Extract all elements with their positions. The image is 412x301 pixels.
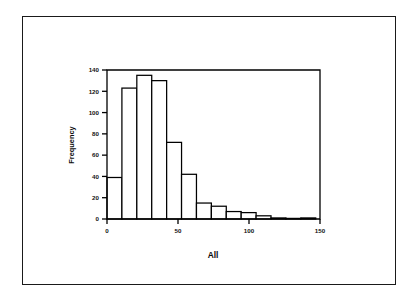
y-tick-label: 80 xyxy=(92,130,99,137)
x-axis-ticks: 050100150 xyxy=(105,219,325,234)
y-tick-label: 40 xyxy=(92,173,99,180)
x-axis-title: All xyxy=(208,250,219,260)
y-tick-label: 60 xyxy=(92,151,99,158)
x-tick-label: 100 xyxy=(244,227,255,234)
histogram-bar xyxy=(167,142,182,219)
histogram-bar xyxy=(107,177,122,219)
histogram-bar xyxy=(211,206,226,219)
y-axis-title: Frequency xyxy=(67,125,76,163)
y-tick-label: 140 xyxy=(89,66,100,73)
histogram-bar xyxy=(122,88,137,219)
y-tick-label: 0 xyxy=(96,215,100,222)
y-tick-label: 100 xyxy=(89,109,100,116)
histogram-bars xyxy=(107,75,316,219)
y-tick-label: 20 xyxy=(92,194,99,201)
histogram-bar xyxy=(182,174,197,219)
y-tick-label: 120 xyxy=(89,88,100,95)
histogram-bar xyxy=(152,81,167,219)
chart-canvas: 020406080100120140 050100150 All Frequen… xyxy=(0,0,412,301)
x-tick-label: 50 xyxy=(175,227,182,234)
histogram-bar xyxy=(241,213,256,219)
x-tick-label: 0 xyxy=(105,227,109,234)
histogram-figure: 020406080100120140 050100150 All Frequen… xyxy=(0,0,412,301)
plot-area: 020406080100120140 050100150 All Frequen… xyxy=(0,0,412,301)
histogram-bar xyxy=(137,75,152,219)
histogram-bar xyxy=(226,212,241,219)
y-axis-ticks: 020406080100120140 xyxy=(89,66,107,222)
x-tick-label: 150 xyxy=(315,227,326,234)
histogram-bar xyxy=(196,203,211,219)
